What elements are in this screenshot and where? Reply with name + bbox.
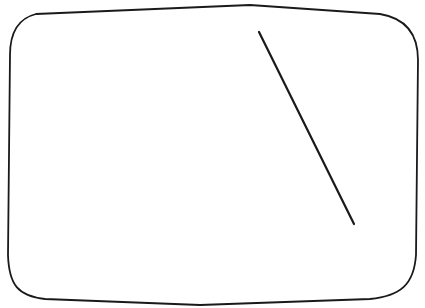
drawing-canvas (0, 0, 425, 308)
line-drawing (0, 0, 425, 308)
diagonal-line (259, 32, 354, 224)
rounded-frame (8, 5, 418, 305)
